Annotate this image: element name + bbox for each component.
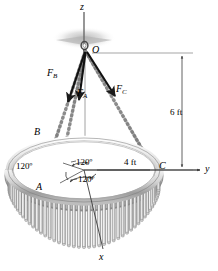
mechanics-figure: z y x O A B C FA FB FC 6 ft 4 ft 120º 12… — [0, 0, 218, 271]
force-subscript-FC: C — [122, 88, 127, 96]
point-label-C: C — [159, 161, 166, 171]
figure-canvas — [0, 0, 218, 271]
force-subscript-FA: A — [83, 92, 87, 100]
point-label-A: A — [36, 182, 42, 192]
dimension-label-radius: 4 ft — [124, 158, 136, 167]
angle-label-bottom: 120º — [78, 175, 94, 184]
force-subscript-FB: B — [53, 72, 57, 80]
axis-label-z: z — [80, 2, 84, 12]
point-label-O: O — [92, 45, 99, 55]
point-label-B: B — [34, 127, 40, 137]
axis-label-y: y — [205, 164, 209, 174]
angle-label-left: 120º — [16, 162, 32, 171]
force-label-FB: FB — [47, 68, 57, 80]
force-label-FA: FA — [77, 88, 87, 100]
dimension-label-height: 6 ft — [170, 108, 182, 117]
axis-label-x: x — [99, 252, 103, 262]
force-vector-FC — [87, 52, 115, 96]
force-label-FC: FC — [116, 84, 127, 96]
angle-label-top-right: 120º — [76, 158, 92, 167]
